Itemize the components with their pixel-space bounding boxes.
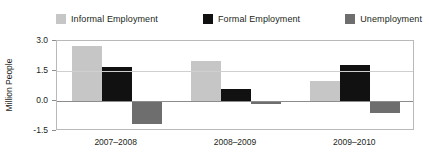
legend-item-unemployment: Unemployment: [345, 14, 422, 24]
y-axis: Million People 3.01.50.0-1.5: [0, 40, 56, 130]
zero-line: [57, 101, 413, 102]
legend-label-unemployment: Unemployment: [360, 14, 422, 24]
plot-area: [56, 40, 414, 130]
bar: [102, 67, 132, 101]
legend-swatch-icon-informal: [56, 14, 66, 24]
y-axis-title: Million People: [5, 49, 14, 121]
bars-layer: [57, 41, 413, 129]
y-tick-label: 0.0: [36, 96, 48, 105]
y-tick-label: 3.0: [36, 36, 48, 45]
bar: [370, 101, 400, 113]
bar: [221, 89, 251, 101]
legend-swatch-icon-formal: [203, 14, 213, 24]
x-axis: 2007–20082008–20092009–2010: [56, 132, 414, 152]
bar-chart: Informal Employment Formal Employment Un…: [0, 0, 429, 156]
y-tick-label: -1.5: [33, 126, 48, 135]
x-tick-label: 2007–2008: [94, 137, 137, 147]
bar: [191, 61, 221, 101]
y-tick-mark: [52, 130, 56, 131]
legend-label-formal: Formal Employment: [218, 14, 300, 24]
bar: [72, 46, 102, 101]
bar: [132, 101, 162, 124]
bar: [310, 81, 340, 101]
x-tick-label: 2008–2009: [214, 137, 257, 147]
gridline: [57, 71, 413, 72]
legend-item-formal-employment: Formal Employment: [203, 14, 300, 24]
y-tick-label: 1.5: [36, 66, 48, 75]
chart-legend: Informal Employment Formal Employment Un…: [56, 10, 422, 28]
x-tick-label: 2009–2010: [333, 137, 376, 147]
legend-label-informal: Informal Employment: [71, 14, 158, 24]
legend-swatch-icon-unemployment: [345, 14, 355, 24]
legend-item-informal-employment: Informal Employment: [56, 14, 158, 24]
